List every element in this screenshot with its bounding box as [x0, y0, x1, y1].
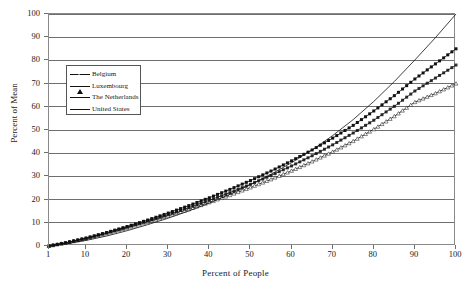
legend-item-the-netherlands[interactable]: The Netherlands — [70, 92, 138, 104]
data-point-marker — [446, 69, 449, 72]
data-point-marker — [196, 203, 199, 206]
data-point-marker — [455, 47, 458, 50]
data-point-marker — [446, 53, 449, 56]
legend-label: United States — [90, 106, 130, 113]
x-axis-tick-label: 30 — [154, 250, 180, 259]
data-point-marker — [200, 202, 203, 205]
data-point-marker — [216, 193, 219, 196]
data-point-marker — [426, 82, 429, 85]
data-point-marker — [117, 228, 120, 231]
data-point-marker — [430, 65, 433, 68]
legend-item-luxembourg[interactable]: Luxembourg — [70, 81, 138, 93]
x-axis-tick-mark — [332, 245, 333, 249]
data-point-marker — [339, 146, 343, 149]
legend-item-belgium[interactable]: Belgium — [70, 69, 138, 81]
x-axis-tick-label: 100 — [442, 250, 468, 259]
data-point-marker — [389, 108, 392, 111]
data-point-marker — [208, 199, 211, 202]
data-point-marker — [159, 216, 162, 219]
legend-marker-plain-line-icon — [70, 104, 90, 115]
data-point-marker — [376, 125, 380, 128]
data-point-marker — [204, 200, 207, 203]
data-point-marker — [344, 129, 347, 132]
data-point-marker — [372, 127, 376, 130]
data-point-marker — [360, 118, 363, 121]
data-point-marker — [438, 59, 441, 62]
data-point-marker — [364, 132, 368, 135]
data-point-marker — [175, 210, 178, 213]
data-point-marker — [282, 163, 285, 166]
data-point-marker — [286, 161, 289, 164]
data-point-marker — [339, 132, 342, 135]
data-point-marker — [413, 90, 416, 93]
data-point-marker — [233, 186, 236, 189]
data-point-marker — [344, 136, 347, 139]
data-point-marker — [368, 112, 371, 115]
data-point-marker — [360, 135, 364, 138]
y-axis-spine — [48, 13, 49, 245]
data-point-marker — [212, 195, 215, 198]
legend-label: Luxembourg — [90, 83, 128, 90]
x-axis-tick-label: 80 — [360, 250, 386, 259]
legend-item-united-states[interactable]: United States — [70, 104, 138, 116]
plot-area — [48, 13, 455, 245]
data-point-marker — [85, 237, 88, 240]
x-axis-tick-label: 70 — [319, 250, 345, 259]
data-point-marker — [286, 166, 289, 169]
data-point-marker — [388, 117, 392, 120]
series-layer — [49, 14, 456, 246]
data-point-marker — [348, 126, 351, 129]
data-point-marker — [80, 238, 83, 241]
x-axis-tick-label: 1 — [35, 250, 61, 259]
data-point-marker — [163, 214, 166, 217]
data-point-marker — [352, 124, 355, 127]
data-point-marker — [171, 212, 174, 215]
data-point-marker — [93, 235, 96, 238]
data-point-marker — [212, 197, 215, 200]
data-point-marker — [430, 79, 433, 82]
data-point-marker — [372, 109, 375, 112]
data-point-marker — [401, 87, 404, 90]
y-axis-tick-label: 0 — [14, 241, 40, 250]
data-point-marker — [409, 93, 412, 96]
legend-marker-square-dash-icon — [70, 92, 90, 103]
x-axis-tick-label: 90 — [401, 250, 427, 259]
data-point-marker — [331, 143, 334, 146]
data-point-marker — [397, 91, 400, 94]
data-point-marker — [265, 171, 268, 174]
data-point-marker — [270, 170, 273, 173]
data-point-marker — [241, 183, 244, 186]
data-point-marker — [376, 116, 379, 119]
data-point-marker — [372, 119, 375, 122]
data-point-marker — [105, 232, 108, 235]
data-point-marker — [438, 74, 441, 77]
data-point-marker — [307, 156, 310, 159]
data-point-marker — [278, 165, 281, 168]
data-point-marker — [179, 209, 182, 212]
data-point-marker — [315, 152, 318, 155]
y-axis-title: Percent of Mean — [9, 53, 19, 173]
data-point-marker — [245, 181, 248, 184]
x-axis-tick-mark — [414, 245, 415, 249]
legend-marker-triangle-open-icon — [70, 69, 90, 80]
legend-label: Belgium — [90, 71, 116, 78]
series-line — [49, 14, 456, 246]
data-point-marker — [413, 77, 416, 80]
legend[interactable]: Belgium Luxembourg The Netherlands Unite… — [66, 65, 141, 115]
data-point-marker — [426, 68, 429, 71]
data-point-marker — [434, 77, 437, 80]
data-point-marker — [405, 84, 408, 87]
data-point-marker — [368, 130, 372, 133]
data-point-marker — [150, 218, 153, 221]
data-point-marker — [138, 222, 141, 225]
data-point-marker — [385, 100, 388, 103]
x-axis-tick-label: 10 — [72, 250, 98, 259]
x-axis-tick-mark — [455, 245, 456, 249]
data-point-marker — [393, 105, 396, 108]
data-point-marker — [455, 64, 458, 67]
data-point-marker — [253, 177, 256, 180]
data-point-marker — [109, 230, 112, 233]
data-point-marker — [134, 223, 137, 226]
data-point-marker — [146, 220, 149, 223]
data-point-marker — [442, 56, 445, 59]
